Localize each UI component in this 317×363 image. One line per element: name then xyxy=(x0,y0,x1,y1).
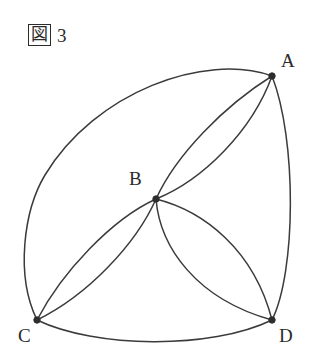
vertex-layer xyxy=(34,73,275,323)
arc-lens-b-d-left xyxy=(156,199,272,320)
vertex-point-b xyxy=(153,196,159,202)
vertex-label-b: B xyxy=(129,169,142,188)
arc-lens-b-c-upper xyxy=(37,199,156,320)
vertex-label-a: A xyxy=(281,51,295,70)
vertex-label-d: D xyxy=(279,326,293,345)
arc-outer-arc-c-d xyxy=(37,320,272,342)
arc-lens-b-d-right xyxy=(156,199,272,320)
arc-outer-arc-d-a xyxy=(272,76,290,320)
arc-lens-b-a-upper xyxy=(156,76,272,199)
vertex-label-c: C xyxy=(18,326,31,345)
arc-lens-b-a-lower xyxy=(156,76,272,199)
geometry-svg xyxy=(0,0,317,363)
arc-layer xyxy=(24,69,290,342)
vertex-point-d xyxy=(269,317,275,323)
vertex-point-c xyxy=(34,317,40,323)
figure-container: 図 3 ABCD xyxy=(0,0,317,363)
arc-lens-b-c-lower xyxy=(37,199,156,320)
vertex-point-a xyxy=(269,73,275,79)
